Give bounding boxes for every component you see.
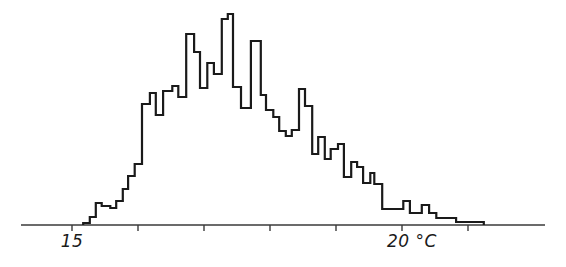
histogram-chart — [0, 0, 566, 267]
x-tick-label-20: 20 °C — [387, 231, 437, 251]
x-tick-label-15: 15 — [61, 231, 84, 251]
histogram-outline — [83, 14, 484, 225]
